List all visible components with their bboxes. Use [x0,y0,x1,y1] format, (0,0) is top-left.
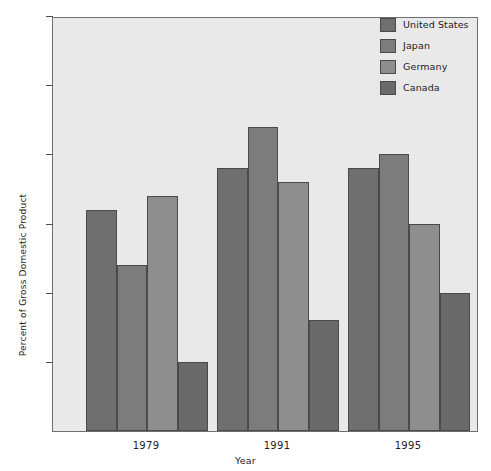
y-tick-mark [46,16,53,17]
legend-item-united-states: United States [380,14,484,35]
bar-japan-1979 [117,265,148,431]
y-axis-title: Percent of Gross Domestic Product [18,115,28,435]
bar-canada-1991 [309,320,340,431]
legend-swatch-icon [380,18,396,32]
legend-item-canada: Canada [380,77,484,98]
bar-united-states-1979 [86,210,117,431]
bar-united-states-1995 [348,168,379,431]
x-tick-label-1991: 1991 [237,440,317,451]
bar-japan-1995 [379,154,410,431]
y-tick-mark [46,362,53,363]
legend-item-germany: Germany [380,56,484,77]
legend-swatch-icon [380,39,396,53]
bar-germany-1995 [409,224,440,432]
x-axis-title: Year [0,455,491,466]
bar-canada-1979 [178,362,209,431]
bar-japan-1991 [248,127,279,431]
y-tick-mark [46,154,53,155]
legend-item-japan: Japan [380,35,484,56]
bar-canada-1995 [440,293,471,431]
chart-legend: United StatesJapanGermanyCanada [380,14,484,98]
bar-chart: Percent of Gross Domestic Product 0.51.0… [0,0,491,471]
y-tick-mark [46,224,53,225]
bar-united-states-1991 [217,168,248,431]
legend-label: Japan [403,40,430,51]
bar-germany-1979 [147,196,178,431]
legend-swatch-icon [380,60,396,74]
legend-label: United States [403,19,469,30]
x-tick-label-1995: 1995 [368,440,448,451]
legend-label: Germany [403,61,447,72]
bar-germany-1991 [278,182,309,431]
legend-label: Canada [403,82,440,93]
y-tick-mark [46,85,53,86]
y-tick-mark [46,293,53,294]
x-tick-label-1979: 1979 [106,440,186,451]
legend-swatch-icon [380,81,396,95]
